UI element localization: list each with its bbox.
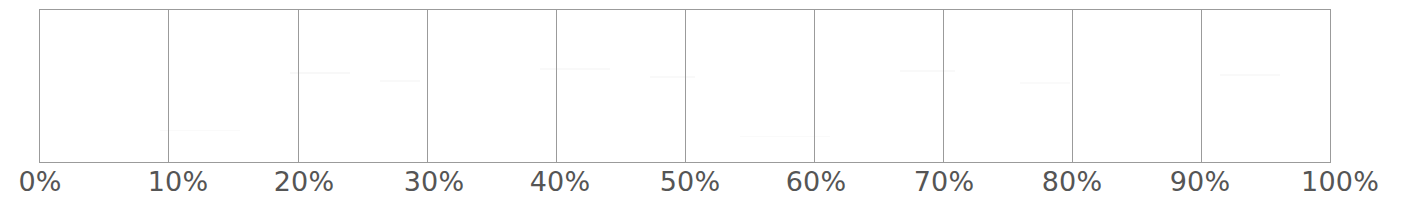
gridline-vertical: [814, 10, 815, 162]
axis-tick-label: 50%: [660, 165, 721, 199]
axis-tick-label: 60%: [786, 165, 847, 199]
gridline-vertical: [298, 10, 299, 162]
percent-axis-figure: 0%10%20%30%40%50%60%70%80%90%100%: [0, 0, 1404, 215]
axis-tick-label-row: 0%10%20%30%40%50%60%70%80%90%100%: [0, 165, 1404, 215]
gridline-vertical: [943, 10, 944, 162]
axis-tick-label: 10%: [148, 165, 209, 199]
axis-tick-label: 0%: [18, 165, 61, 199]
plot-area: [39, 9, 1331, 163]
axis-tick-label: 80%: [1042, 165, 1103, 199]
axis-tick-label: 30%: [404, 165, 465, 199]
axis-tick-label: 90%: [1170, 165, 1231, 199]
axis-tick-label: 70%: [914, 165, 975, 199]
gridline-vertical: [427, 10, 428, 162]
gridline-vertical: [556, 10, 557, 162]
gridline-vertical: [685, 10, 686, 162]
gridline-vertical: [1072, 10, 1073, 162]
gridline-vertical: [168, 10, 169, 162]
axis-tick-label: 40%: [530, 165, 591, 199]
axis-tick-label: 100%: [1301, 165, 1379, 199]
axis-tick-label: 20%: [274, 165, 335, 199]
gridline-vertical: [1201, 10, 1202, 162]
